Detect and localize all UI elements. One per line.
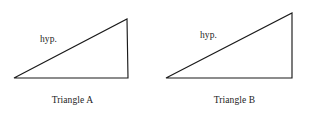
triangle-a-caption: Triangle A — [0, 95, 145, 105]
triangle-b-caption: Triangle B — [160, 95, 309, 105]
figure-root: hyp. hyp. Triangle A Triangle B — [0, 0, 309, 113]
triangle-a-shape — [14, 19, 128, 78]
triangle-a-hypotenuse-label: hyp. — [40, 35, 57, 45]
triangle-b-hypotenuse-label: hyp. — [200, 31, 217, 41]
triangle-b-shape — [166, 13, 292, 78]
